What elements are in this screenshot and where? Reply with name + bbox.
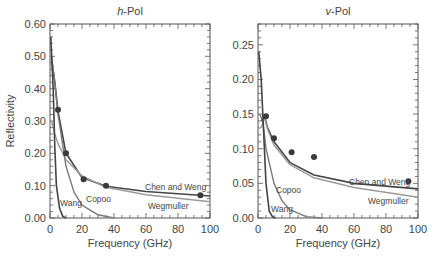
observed-point <box>311 154 317 160</box>
y-tick-label: 0.20 <box>233 73 254 85</box>
observed-point <box>55 107 61 113</box>
y-tick-label: 0.30 <box>25 115 46 127</box>
x-tick-label: 0 <box>47 223 53 235</box>
x-tick-label: 60 <box>140 223 152 235</box>
x-tick-label: 20 <box>284 223 296 235</box>
observed-point <box>263 113 269 119</box>
x-tick-label: 20 <box>76 223 88 235</box>
x-tick-label: 80 <box>172 223 184 235</box>
x-tick-label: 40 <box>316 223 328 235</box>
y-tick-label: 0.40 <box>25 83 46 95</box>
annotation-chen-and-weng: Chen and Weng <box>145 182 207 192</box>
x-tick-label: 0 <box>255 223 261 235</box>
observed-point <box>271 135 277 141</box>
observed-point <box>197 192 203 198</box>
annotation-copoo: Copoo <box>276 185 301 195</box>
x-axis-label: Frequency (GHz) <box>296 237 380 249</box>
annotation-wang: Wang <box>60 198 82 208</box>
y-tick-label: 0.25 <box>233 39 254 51</box>
x-tick-label: 100 <box>201 223 219 235</box>
h-pol-chart: 0204060801000.000.100.200.300.400.500.60… <box>4 5 219 249</box>
series-line-chen-and-weng <box>52 60 210 196</box>
y-tick-label: 0.10 <box>233 143 254 155</box>
annotation-chen-and-weng: Chen and Weng <box>349 177 411 187</box>
y-tick-label: 0.15 <box>233 108 254 120</box>
y-tick-label: 0.00 <box>233 212 254 224</box>
x-tick-label: 60 <box>348 223 360 235</box>
observed-point <box>289 149 295 155</box>
observed-point <box>81 176 87 182</box>
y-tick-label: 0.00 <box>25 212 46 224</box>
v-pol-chart: 0204060801000.000.050.100.150.200.25v-Po… <box>233 5 428 249</box>
annotation-wang: Wang <box>271 204 293 214</box>
y-tick-label: 0.20 <box>25 147 46 159</box>
chart-canvas: 0204060801000.000.100.200.300.400.500.60… <box>0 0 435 260</box>
annotation-wegmuller: Wegmuller <box>368 196 409 206</box>
x-axis-label: Frequency (GHz) <box>88 237 172 249</box>
chart-title: v-Pol <box>325 5 350 17</box>
x-tick-label: 100 <box>409 223 427 235</box>
x-tick-label: 40 <box>108 223 120 235</box>
annotation-copoo: Copoo <box>86 194 111 204</box>
y-tick-label: 0.50 <box>25 50 46 62</box>
annotation-wegmuller: Wegmuller <box>148 201 189 211</box>
y-tick-label: 0.10 <box>25 180 46 192</box>
chart-title: h-Pol <box>117 5 143 17</box>
y-axis-label: Reflectivity <box>4 94 16 148</box>
y-tick-label: 0.60 <box>25 18 46 30</box>
observed-point <box>63 150 69 156</box>
x-tick-label: 80 <box>380 223 392 235</box>
series-line-wang <box>259 52 276 218</box>
y-tick-label: 0.05 <box>233 177 254 189</box>
observed-point <box>103 183 109 189</box>
